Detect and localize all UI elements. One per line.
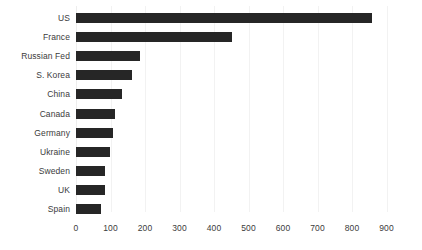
- bar: [76, 70, 132, 80]
- plot-area: [76, 6, 387, 212]
- category-label: Ukraine: [0, 147, 70, 157]
- bar: [76, 128, 113, 138]
- category-label: Germany: [0, 128, 70, 138]
- tick-label: 700: [310, 222, 324, 234]
- category-label: Russian Fed: [0, 51, 70, 61]
- category-label: Sweden: [0, 166, 70, 176]
- category-label: Spain: [0, 204, 70, 214]
- bar: [76, 204, 101, 214]
- bar: [76, 109, 115, 119]
- tick-label: 800: [345, 222, 359, 234]
- bars: [76, 6, 387, 212]
- bar: [76, 51, 140, 61]
- category-axis-labels: USFranceRussian FedS. KoreaChinaCanadaGe…: [0, 6, 70, 212]
- tick-label: 300: [172, 222, 186, 234]
- tick-label: 900: [379, 222, 393, 234]
- tick-label: 600: [276, 222, 290, 234]
- tick-label: 100: [103, 222, 117, 234]
- bar-chart: USFranceRussian FedS. KoreaChinaCanadaGe…: [0, 0, 422, 250]
- bar: [76, 166, 105, 176]
- bar: [76, 147, 110, 157]
- category-label: Canada: [0, 109, 70, 119]
- category-label: France: [0, 32, 70, 42]
- category-label: US: [0, 13, 70, 23]
- gridline-900: [387, 6, 388, 212]
- bar: [76, 13, 372, 23]
- category-label: China: [0, 89, 70, 99]
- bar: [76, 32, 232, 42]
- tick-label: 500: [241, 222, 255, 234]
- tick-label: 400: [207, 222, 221, 234]
- category-label: UK: [0, 185, 70, 195]
- category-label: S. Korea: [0, 70, 70, 80]
- tick-label: 0: [74, 222, 79, 234]
- bar: [76, 89, 122, 99]
- value-axis-labels: 0100200300400500600700800900: [0, 222, 422, 238]
- bar: [76, 185, 105, 195]
- tick-label: 200: [138, 222, 152, 234]
